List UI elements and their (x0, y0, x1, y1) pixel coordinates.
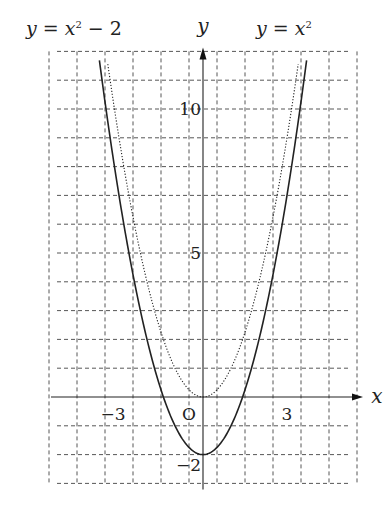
annotation-x-squared: y = x2 (255, 17, 312, 39)
x-tick-label: 3 (282, 404, 293, 424)
x-tick-label: −3 (100, 404, 125, 424)
x-axis-label: x (371, 384, 382, 408)
origin-label: O (182, 404, 196, 424)
y-tick-label: 5 (190, 243, 201, 263)
y-axis-label: y (196, 14, 209, 38)
y-tick-label: 10 (179, 99, 201, 119)
y-tick-label: −2 (176, 455, 201, 475)
y-axis-arrow-icon (200, 47, 207, 59)
axes (51, 47, 363, 489)
annotation-x-squared-minus-2: y = x2 − 2 (25, 17, 122, 39)
parabola-chart: xy−33105−2Oy = x2 − 2y = x2 (0, 0, 388, 517)
x-axis-arrow-icon (352, 394, 363, 401)
